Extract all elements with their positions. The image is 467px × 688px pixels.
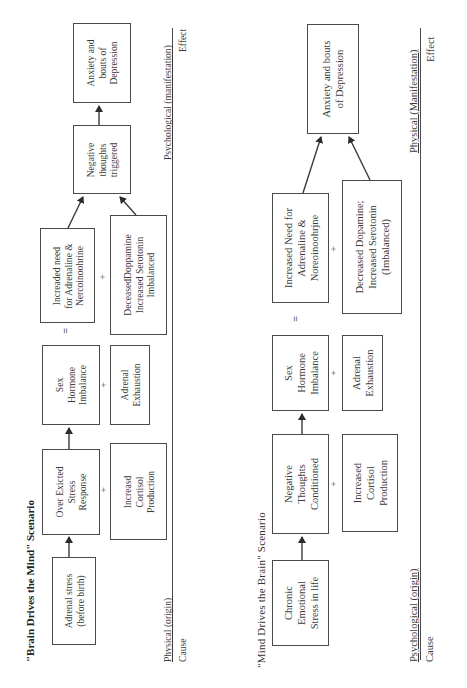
- diagram-canvas: "Brain Drives the Mind" Scenario Adrenal…: [0, 0, 467, 688]
- flow-arrows: [0, 0, 467, 688]
- arrow-icon: [120, 197, 136, 215]
- arrow-icon: [68, 197, 83, 228]
- arrow-icon: [349, 137, 370, 180]
- arrow-icon: [303, 137, 321, 193]
